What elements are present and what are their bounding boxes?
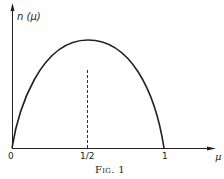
x-tick-0: 0 bbox=[8, 152, 14, 161]
x-tick-1: 1 bbox=[162, 152, 168, 161]
figure-caption: Fig. 1 bbox=[95, 165, 125, 175]
x-tick-half: 1/2 bbox=[80, 152, 94, 161]
y-axis-arrow-icon bbox=[11, 3, 15, 11]
x-axis-arrow-icon bbox=[207, 147, 216, 151]
y-axis-label: n (μ) bbox=[17, 12, 41, 22]
x-axis-label: μ bbox=[215, 152, 222, 162]
figure-canvas bbox=[0, 0, 224, 179]
